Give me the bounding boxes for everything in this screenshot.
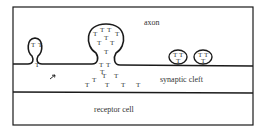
svg-text:T: T	[106, 61, 111, 69]
svg-text:T: T	[38, 41, 43, 49]
synaptic-cleft-label: synaptic cleft	[160, 75, 204, 84]
svg-text:T: T	[104, 34, 109, 42]
arrow-marker-icon	[50, 75, 55, 79]
svg-text:T: T	[105, 81, 110, 89]
svg-text:T: T	[100, 26, 105, 34]
receptor-cell-label: receptor cell	[94, 105, 135, 114]
synapse-diagram: T T T T T T T T T T T T T T T T T T T T …	[0, 0, 261, 132]
svg-text:T: T	[92, 76, 97, 84]
svg-text:T: T	[176, 57, 181, 65]
svg-text:T: T	[201, 57, 206, 65]
axon-membrane	[13, 24, 253, 66]
receptor-membrane	[13, 92, 253, 93]
svg-text:T: T	[102, 72, 107, 80]
svg-text:T: T	[136, 81, 141, 89]
svg-text:T: T	[85, 81, 90, 89]
synapse-svg: T T T T T T T T T T T T T T T T T T T T …	[0, 0, 261, 132]
svg-text:T: T	[35, 61, 40, 69]
svg-text:T: T	[93, 30, 98, 38]
svg-text:T: T	[107, 26, 112, 34]
svg-text:T: T	[97, 39, 102, 47]
svg-text:T: T	[114, 72, 119, 80]
svg-text:T: T	[104, 48, 109, 56]
svg-text:T: T	[121, 81, 126, 89]
svg-text:T: T	[31, 41, 36, 49]
svg-text:T: T	[115, 30, 120, 38]
small-vesicle-transmitters: T T T	[31, 41, 43, 69]
axon-label: axon	[144, 18, 160, 27]
svg-text:T: T	[110, 39, 115, 47]
